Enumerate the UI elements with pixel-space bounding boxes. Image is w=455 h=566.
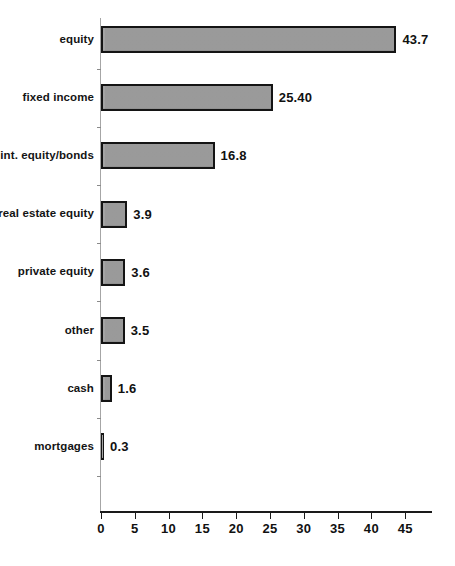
y-axis-tick — [97, 127, 101, 128]
x-axis-tick-label: 35 — [330, 521, 345, 536]
bar — [101, 84, 273, 111]
bar-row: cash1.6 — [0, 375, 455, 402]
category-label: equity — [60, 33, 94, 45]
bar-row: real estate equity3.9 — [0, 201, 455, 228]
category-label: other — [65, 324, 94, 336]
y-axis-tick — [97, 243, 101, 244]
x-axis-tick-label: 45 — [398, 521, 413, 536]
x-axis-line — [100, 511, 432, 513]
bar — [101, 201, 127, 228]
bar — [101, 142, 215, 169]
y-axis-tick — [97, 185, 101, 186]
bar-chart: 051015202530354045 equity43.7fixed incom… — [0, 0, 455, 566]
bar-value-label: 1.6 — [118, 381, 137, 396]
category-label: fixed income — [23, 91, 95, 103]
bar-value-label: 3.5 — [131, 323, 150, 338]
x-axis-tick — [135, 513, 136, 519]
y-axis-tick — [97, 301, 101, 302]
x-axis-tick — [338, 513, 339, 519]
x-axis-tick-label: 30 — [296, 521, 311, 536]
category-label: int. equity/bonds — [0, 149, 94, 161]
category-label: cash — [67, 382, 94, 394]
x-axis-tick — [371, 513, 372, 519]
bar-row: equity43.7 — [0, 26, 455, 53]
x-axis-tick — [169, 513, 170, 519]
y-axis-tick — [97, 69, 101, 70]
x-axis-tick — [101, 513, 102, 519]
bar-row: fixed income25.40 — [0, 84, 455, 111]
bar-value-label: 43.7 — [402, 32, 428, 47]
x-axis-tick-label: 10 — [161, 521, 176, 536]
bar — [101, 317, 125, 344]
bar-row: mortgages0.3 — [0, 433, 455, 460]
bar-row: other3.5 — [0, 317, 455, 344]
category-label: private equity — [18, 265, 94, 277]
bar-row: int. equity/bonds16.8 — [0, 142, 455, 169]
y-axis-tick — [97, 360, 101, 361]
x-axis-tick — [270, 513, 271, 519]
bar-row: private equity3.6 — [0, 259, 455, 286]
y-axis-tick — [97, 476, 101, 477]
x-axis-tick — [202, 513, 203, 519]
x-axis-tick — [405, 513, 406, 519]
x-axis-tick — [236, 513, 237, 519]
bar — [101, 259, 125, 286]
x-axis-tick — [304, 513, 305, 519]
x-axis-tick-label: 40 — [364, 521, 379, 536]
x-axis-tick-label: 0 — [97, 521, 105, 536]
category-label: mortgages — [34, 440, 94, 452]
bar — [101, 26, 396, 53]
category-label: real estate equity — [0, 207, 94, 219]
x-axis-tick-label: 5 — [131, 521, 139, 536]
x-axis-tick-label: 20 — [229, 521, 244, 536]
bar-value-label: 25.40 — [279, 90, 313, 105]
x-axis-tick-label: 15 — [195, 521, 210, 536]
bar-value-label: 3.6 — [131, 265, 150, 280]
bar-value-label: 16.8 — [221, 148, 247, 163]
bar — [101, 433, 104, 460]
bar-value-label: 0.3 — [110, 439, 129, 454]
bar — [101, 375, 112, 402]
bar-value-label: 3.9 — [133, 207, 152, 222]
y-axis-tick — [97, 418, 101, 419]
x-axis-tick-label: 25 — [262, 521, 277, 536]
